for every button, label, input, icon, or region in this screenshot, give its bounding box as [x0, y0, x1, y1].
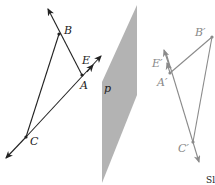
label-c-prime: C′	[178, 143, 189, 154]
line-bc	[26, 34, 59, 137]
label-a: A	[80, 80, 88, 91]
label-a-prime: A′	[157, 77, 167, 88]
point-a-prime	[168, 71, 171, 74]
point-c-prime	[191, 140, 194, 143]
label-c: C	[30, 136, 38, 147]
line-ab-extended	[48, 9, 82, 75]
label-b-prime: B′	[195, 27, 206, 38]
line-b-prime-c-prime	[193, 37, 212, 142]
label-b: B	[64, 25, 72, 36]
point-b	[57, 32, 60, 35]
point-a	[80, 73, 83, 76]
line-a-prime-b-prime	[170, 37, 212, 73]
label-e: E	[82, 55, 90, 66]
reflection-diagram: p A B C E A′ B′ C′ E′ Sl	[0, 0, 215, 185]
point-b-prime	[210, 35, 213, 38]
line-ca-down	[6, 137, 26, 158]
point-c	[24, 135, 27, 138]
corner-text: Sl	[206, 175, 215, 185]
line-a-prime-up	[164, 50, 170, 68]
plane-label: p	[104, 83, 111, 94]
label-e-prime: E′	[152, 58, 163, 69]
